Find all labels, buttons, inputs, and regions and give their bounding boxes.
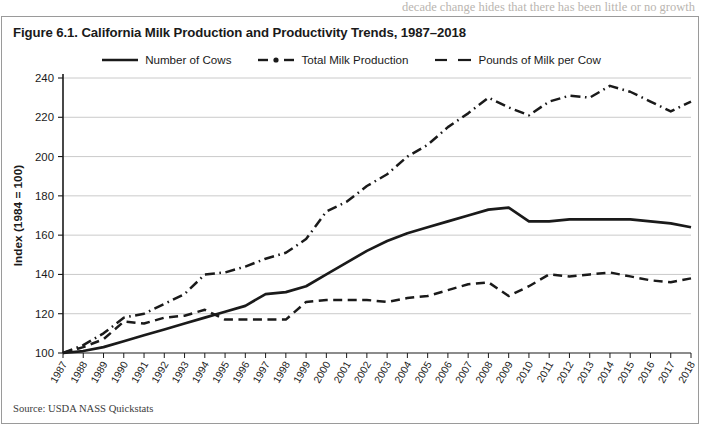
x-axis-tick-label: 2009 [494, 359, 515, 385]
y-axis-title: Index (1984 = 100) [11, 165, 25, 266]
source-note: Source: USDA NASS Quickstats [13, 403, 153, 414]
x-axis-tick-label: 2008 [474, 359, 495, 385]
x-axis-tick-label: 2017 [656, 359, 677, 385]
x-axis-tick-label: 2015 [615, 359, 636, 385]
x-axis-tick-label: 1988 [68, 359, 89, 385]
x-axis-tick-label: 1997 [251, 359, 272, 385]
x-axis-tick-label: 2016 [636, 359, 657, 385]
page-bleed-text: decade change hides that there has been … [0, 0, 701, 16]
gridlines [63, 78, 691, 314]
x-axis-tick-label: 2013 [575, 359, 596, 385]
x-axis-tick-label: 1998 [271, 359, 292, 385]
x-axis-tick-label: 2007 [453, 359, 474, 385]
y-axis-tick-label: 240 [35, 72, 54, 84]
x-axis-tick-label: 2010 [514, 359, 535, 385]
x-axis-tick-label: 2000 [311, 359, 332, 385]
x-axis-tick-label: 1999 [291, 359, 312, 385]
data-series [63, 86, 691, 353]
x-axis-tick-label: 2005 [413, 359, 434, 385]
axis-lines [63, 74, 691, 353]
series-line-pounds-of-milk-per-cow [63, 272, 691, 353]
y-axis-tick-label: 200 [35, 151, 54, 163]
x-axis-tick-label: 2014 [595, 359, 616, 385]
x-axis-tick-label: 1991 [129, 359, 150, 385]
x-axis-tick-label: 1992 [149, 359, 170, 385]
x-axis-tick-label: 1996 [230, 359, 251, 385]
line-chart-svg: 100120140160180200220240 198719881989199… [2, 17, 700, 425]
x-axis-tick-label: 2006 [433, 359, 454, 385]
x-axis-tick-label: 1995 [210, 359, 231, 385]
x-axis-tick-label: 2012 [555, 359, 576, 385]
x-axis-tick-label: 1993 [170, 359, 191, 385]
y-axis-tick-label: 180 [35, 190, 54, 202]
x-axis-tick-label: 1990 [109, 359, 130, 385]
x-axis-ticks: 1987198819891990199119921993199419951996… [48, 353, 697, 385]
y-axis-tick-label: 140 [35, 268, 54, 280]
x-axis-tick-label: 2011 [535, 359, 556, 384]
y-axis-tick-label: 120 [35, 308, 54, 320]
x-axis-tick-label: 2018 [676, 359, 697, 385]
x-axis-tick-label: 2001 [332, 359, 353, 385]
x-axis-tick-label: 2002 [352, 359, 373, 385]
x-axis-tick-label: 2003 [372, 359, 393, 385]
y-axis-tick-label: 160 [35, 229, 54, 241]
x-axis-tick-label: 1994 [190, 359, 211, 385]
x-axis-tick-label: 1987 [48, 359, 69, 385]
y-axis-title-text: Index (1984 = 100) [11, 165, 25, 266]
x-axis-tick-label: 1989 [89, 359, 110, 385]
y-axis-tick-label: 100 [35, 347, 54, 359]
y-axis-tick-label: 220 [35, 111, 54, 123]
y-axis-ticks: 100120140160180200220240 [35, 72, 63, 359]
series-line-number-of-cows [63, 208, 691, 353]
chart-plot-area: 100120140160180200220240 198719881989199… [2, 17, 700, 425]
x-axis-tick-label: 2004 [393, 359, 414, 385]
figure-container: Figure 6.1. California Milk Production a… [1, 16, 699, 424]
